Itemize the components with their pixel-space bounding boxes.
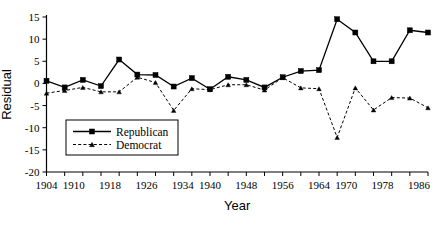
republican-data-point <box>298 69 303 74</box>
republican-data-point <box>135 72 140 77</box>
y-axis-title: Residual <box>0 69 14 120</box>
democrat-data-point <box>153 81 158 85</box>
republican-data-point <box>208 87 213 92</box>
y-axis-tick-labels: 151050-5-10-15-20 <box>25 11 40 178</box>
democrat-data-point <box>353 86 358 90</box>
republican-data-point <box>353 30 358 35</box>
republican-data-point <box>426 30 431 35</box>
legend-label-democrat: Democrat <box>116 139 162 151</box>
republican-data-point <box>244 77 249 82</box>
plot-area: 151050-5-10-15-20 1904191019181926193419… <box>0 11 431 213</box>
y-tick-label: -10 <box>25 122 40 134</box>
legend-label-republican: Republican <box>116 126 169 139</box>
x-tick-label: 1948 <box>235 179 258 191</box>
series-republican <box>44 17 431 92</box>
republican-data-point <box>44 78 49 83</box>
y-tick-label: 5 <box>34 55 40 67</box>
y-tick-label: -5 <box>30 100 40 112</box>
x-tick-label: 1970 <box>335 179 358 191</box>
x-axis-title: Year <box>224 198 251 213</box>
x-tick-label: 1986 <box>408 179 431 191</box>
democrat-data-point <box>317 87 322 91</box>
republican-data-point <box>117 57 122 62</box>
republican-data-point <box>280 75 285 80</box>
y-tick-label: -20 <box>25 166 40 178</box>
y-tick-label: -15 <box>25 144 40 156</box>
y-tick-label: 15 <box>29 11 41 23</box>
republican-data-point <box>389 59 394 64</box>
residual-line-chart: 151050-5-10-15-20 1904191019181926193419… <box>0 0 435 230</box>
republican-data-point <box>317 68 322 73</box>
x-axis-tick-labels: 1904191019181926193419401948195619641970… <box>36 179 431 191</box>
x-tick-label: 1964 <box>308 179 331 191</box>
chart-figure: 151050-5-10-15-20 1904191019181926193419… <box>0 0 435 230</box>
republican-data-point <box>335 17 340 22</box>
x-tick-label: 1926 <box>135 179 158 191</box>
chart-legend: RepublicanDemocrat <box>66 120 178 155</box>
x-tick-label: 1934 <box>172 179 195 191</box>
republican-data-point <box>153 73 158 78</box>
x-axis-ticks <box>47 172 429 176</box>
republican-data-point <box>371 59 376 64</box>
legend-marker-republican <box>90 129 95 134</box>
x-tick-label: 1940 <box>199 179 222 191</box>
republican-data-point <box>171 84 176 89</box>
republican-data-point <box>262 85 267 90</box>
x-tick-label: 1956 <box>272 179 295 191</box>
x-tick-label: 1904 <box>36 179 59 191</box>
republican-data-point <box>407 28 412 33</box>
x-tick-label: 1910 <box>63 179 86 191</box>
republican-data-point <box>189 76 194 81</box>
y-tick-label: 0 <box>34 77 40 89</box>
republican-data-point <box>226 74 231 79</box>
x-tick-label: 1978 <box>372 179 395 191</box>
republican-data-point <box>80 77 85 82</box>
democrat-data-point <box>335 135 340 139</box>
y-tick-label: 10 <box>29 33 41 45</box>
x-tick-label: 1918 <box>99 179 122 191</box>
republican-data-point <box>99 84 104 89</box>
republican-data-point <box>62 85 67 90</box>
